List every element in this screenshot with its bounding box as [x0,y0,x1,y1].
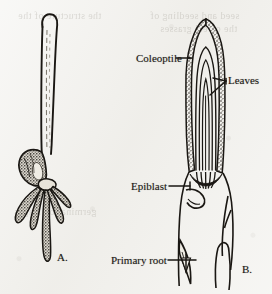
label-primary-root: Primary root [111,254,167,266]
seedling-line-drawing [0,0,272,294]
primary-root-b [179,240,190,284]
leaf-bases [197,172,216,189]
panel-b-drawing [179,19,233,290]
coleoptile-shoot-a [41,14,57,156]
panel-a-drawing [15,14,70,261]
enclosed-leaves [196,47,216,170]
label-leaves: Leaves [228,74,259,86]
label-coleoptile: Coleoptile [136,52,182,64]
figure-letter-b: B. [242,263,252,275]
figure-letter-a: A. [57,251,68,263]
botanical-figure: the structure of the seed and seedling o… [0,0,272,294]
label-epiblast: Epiblast [131,180,167,192]
